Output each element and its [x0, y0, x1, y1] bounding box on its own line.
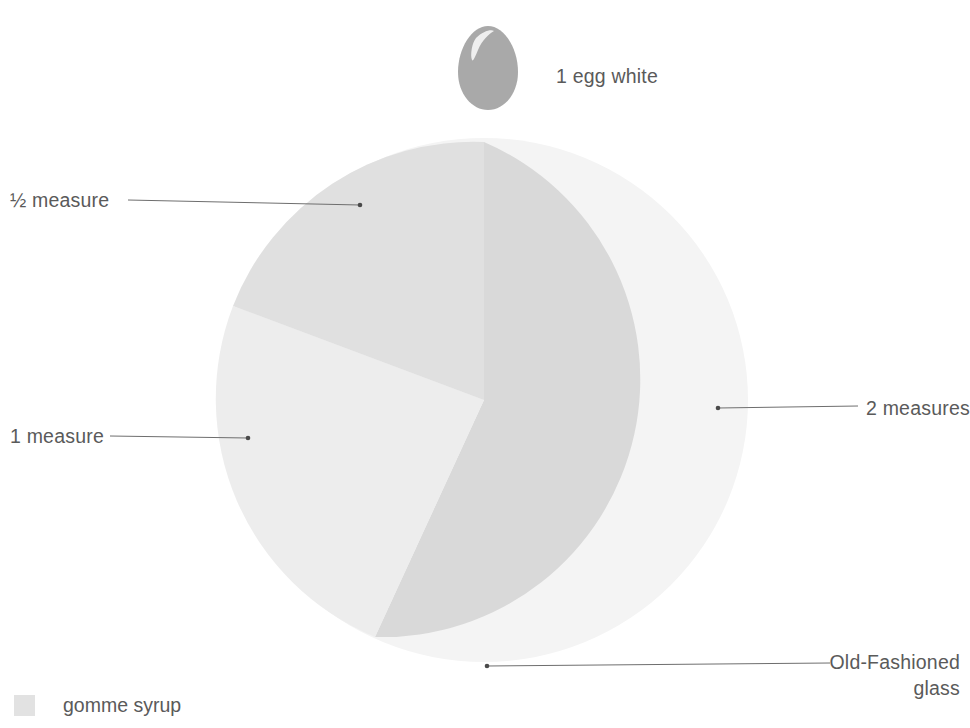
label-half-measure: ½ measure: [10, 188, 109, 214]
leader-dot-glass: [485, 664, 490, 669]
label-old-fashioned-glass: Old-Fashioned glass: [740, 650, 960, 701]
leader-dot-one-measure: [246, 436, 251, 441]
label-two-measures: 2 measures: [866, 396, 970, 422]
legend-swatch-gomme-syrup: [14, 695, 35, 716]
label-glass-line2: glass: [740, 676, 960, 702]
legend-label-gomme-syrup: gomme syrup: [63, 694, 181, 717]
label-one-measure: 1 measure: [10, 424, 104, 450]
label-glass-line1: Old-Fashioned: [740, 650, 960, 676]
egg-shape: [458, 26, 518, 110]
egg-illustration: [458, 26, 518, 110]
label-egg-white: 1 egg white: [556, 64, 658, 90]
leader-dot-two-measures: [716, 406, 721, 411]
legend: gomme syrup: [14, 694, 181, 717]
leader-dot-half-measure: [358, 203, 363, 208]
